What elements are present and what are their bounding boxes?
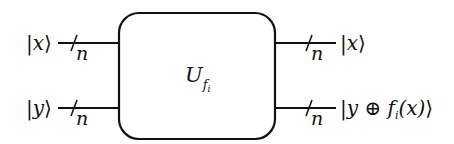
- bus-width-label: n: [76, 107, 88, 129]
- bus-width-label: n: [76, 42, 88, 64]
- output-ket-y-xor-f: |y ⊕ fi(x)⟩: [340, 96, 433, 122]
- quantum-circuit-diagram: |x⟩ |y⟩ n n n n Ufi |x⟩ |y ⊕ fi(x)⟩: [0, 0, 454, 144]
- output-ket-x: |x⟩: [340, 31, 366, 56]
- input-ket-x: |x⟩: [26, 31, 52, 56]
- bus-width-label: n: [311, 42, 323, 64]
- input-ket-y: |y⟩: [26, 96, 52, 121]
- bus-width-label: n: [311, 107, 323, 129]
